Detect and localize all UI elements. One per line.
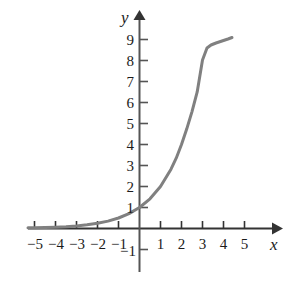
- y-tick-label-6: 6: [114, 96, 134, 111]
- x-tick-label-3: 3: [195, 237, 210, 252]
- y-tick-label-9: 9: [114, 33, 134, 48]
- y-tick-label-8: 8: [114, 54, 134, 69]
- x-tick-label--5: −5: [25, 237, 45, 252]
- x-tick-label-2: 2: [174, 237, 189, 252]
- x-tick-label--3: −3: [67, 237, 87, 252]
- x-axis-arrowhead: [272, 223, 283, 235]
- x-tick-label-5: 5: [237, 237, 252, 252]
- x-tick-label-1: 1: [153, 237, 168, 252]
- y-tick-label-3: 3: [114, 159, 134, 174]
- y-tick-label--1: −1: [114, 244, 136, 259]
- x-tick-label--4: −4: [46, 237, 66, 252]
- x-tick-label-4: 4: [216, 237, 231, 252]
- y-tick-label-5: 5: [114, 117, 134, 132]
- y-tick-label-2: 2: [114, 180, 134, 195]
- x-axis-label: x: [270, 236, 278, 253]
- y-axis-label: y: [121, 9, 129, 26]
- y-axis: [134, 10, 146, 272]
- y-tick-label-7: 7: [114, 75, 134, 90]
- y-tick-label-1: 1: [114, 201, 134, 216]
- x-tick-label--2: −2: [88, 237, 108, 252]
- y-tick-label-4: 4: [114, 138, 134, 153]
- graph-figure: −5 −4 −3 −2 −1 1 2 3 4 5 −1 1 2 3 4 5 6 …: [0, 0, 288, 283]
- y-axis-arrowhead: [134, 10, 146, 20]
